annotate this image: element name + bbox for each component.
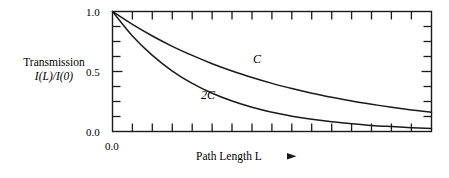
x-tick-label-origin: 0.0 (105, 140, 119, 152)
y-tick-label-0: 0.0 (86, 126, 100, 138)
curve-label-2c: 2C (201, 88, 215, 103)
x-axis-title-text: Path Length L (196, 150, 261, 162)
x-axis-top-ticks (132, 12, 411, 20)
x-axis-title: Path Length L (196, 149, 346, 164)
right-arrow-icon (271, 150, 297, 164)
y-tick-label-1: 1.0 (86, 6, 100, 18)
curve-label-c: C (253, 52, 261, 67)
curve-series-2c (113, 12, 432, 129)
y-axis-ticks (113, 27, 123, 117)
transmission-chart-figure: Transmission I(L)/I(0) Path Length L 1.0… (0, 0, 449, 178)
y-axis-right-ticks (422, 27, 432, 117)
y-tick-label-0_5: 0.5 (86, 66, 100, 78)
plot-frame-box (113, 12, 432, 132)
